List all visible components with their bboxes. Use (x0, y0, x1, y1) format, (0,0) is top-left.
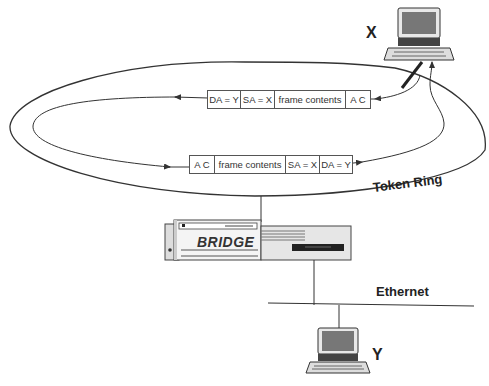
ethernet-label: Ethernet (376, 284, 429, 299)
computer-y (306, 328, 370, 373)
computer-x (384, 8, 454, 60)
frame-bottom: A C frame contents SA = X DA = Y (189, 155, 353, 174)
frame-bottom-da: DA = Y (320, 156, 352, 173)
bridge-device (165, 220, 351, 260)
frame-top-da: DA = Y (208, 91, 241, 108)
ethernet-bus (268, 303, 474, 306)
node-y-label: Y (372, 346, 383, 364)
frame-bottom-sa: SA = X (286, 156, 320, 173)
frame-top: DA = Y SA = X frame contents A C (207, 90, 371, 109)
frame-top-contents: frame contents (275, 91, 346, 108)
frame-bottom-ac: A C (190, 156, 215, 173)
frame-bottom-contents: frame contents (215, 156, 286, 173)
node-x-label: X (366, 24, 377, 42)
inner-path-top (375, 75, 420, 99)
diagram-canvas (0, 0, 489, 386)
frame-top-ac: A C (346, 91, 370, 108)
frame-top-sa: SA = X (241, 91, 275, 108)
bridge-label: BRIDGE (197, 234, 254, 250)
